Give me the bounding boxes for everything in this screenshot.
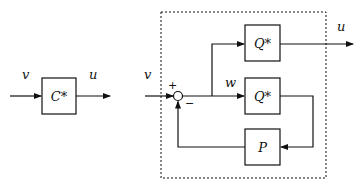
input-signal-label-right: v [144, 68, 151, 81]
controller-block: C* [42, 78, 76, 114]
plant-block-label: P [258, 140, 267, 155]
top-q-block-label: Q* [254, 36, 271, 51]
top-q-block: Q* [245, 25, 280, 61]
middle-q-block-label: Q* [254, 89, 271, 104]
output-signal-label-right: u [337, 20, 345, 33]
plant-block: P [245, 129, 280, 165]
output-signal-label: u [89, 68, 97, 81]
plus-sign: + [168, 80, 177, 91]
middle-q-block: Q* [245, 78, 280, 114]
minus-sign: − [185, 98, 194, 109]
input-signal-label: v [22, 68, 29, 81]
internal-signal-label: w [225, 76, 236, 89]
controller-block-label: C* [51, 89, 67, 104]
